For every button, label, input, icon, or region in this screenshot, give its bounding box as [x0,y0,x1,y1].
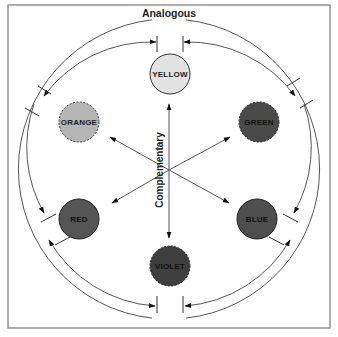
node-label: GREEN [244,118,273,127]
node-label: VIOLET [155,262,185,271]
analogous-title: Analogous [142,7,196,19]
node-violet: VIOLET [150,246,190,286]
complementary-label: Complementary [154,132,165,208]
node-label: RED [70,215,88,224]
node-red: RED [59,199,99,239]
node-label: ORANGE [61,118,98,127]
node-label: YELLOW [152,70,188,79]
node-blue: BLUE [237,199,277,239]
node-yellow: YELLOW [150,54,190,94]
node-label: BLUE [246,215,269,224]
node-green: GREEN [239,102,279,142]
node-orange: ORANGE [59,102,99,142]
diagram-canvas: Analogous [0,0,338,337]
color-wheel-diagram: Analogous [0,0,338,337]
